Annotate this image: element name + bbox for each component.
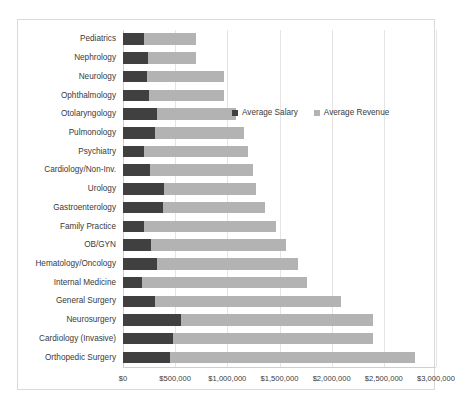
bar-segment-average-salary <box>123 127 155 139</box>
category-label: Hematology/Oncology <box>35 260 116 268</box>
x-tick-label: $3,000,000 <box>417 374 455 383</box>
stacked-bar <box>123 127 244 139</box>
bar-segment-average-revenue <box>157 108 235 120</box>
category-label: OB/GYN <box>84 241 116 249</box>
chart-row: General Surgery <box>123 292 436 311</box>
legend-entry-average-salary: Average Salary <box>232 108 298 117</box>
x-tick-label: $1,500,000 <box>260 374 298 383</box>
stacked-bar <box>123 202 265 214</box>
bar-segment-average-revenue <box>144 33 196 45</box>
x-tick-label: $500,000 <box>159 374 191 383</box>
chart-row: Cardiology (Invasive) <box>123 330 436 349</box>
category-label: Internal Medicine <box>54 279 116 287</box>
bar-segment-average-revenue <box>144 146 248 158</box>
chart-row: Ophthalmology <box>123 86 436 105</box>
category-label: Nephrology <box>74 54 116 62</box>
bar-segment-average-revenue <box>142 277 307 289</box>
bar-segment-average-salary <box>123 258 157 270</box>
bar-segment-average-salary <box>123 146 144 158</box>
x-tick-label: $2,000,000 <box>313 374 351 383</box>
bar-segment-average-revenue <box>147 71 224 83</box>
stacked-bar <box>123 183 256 195</box>
bar-segment-average-salary <box>123 33 144 45</box>
plot-area: PediatricsNephrologyNeurologyOphthalmolo… <box>123 30 436 367</box>
x-axis-line <box>123 367 436 368</box>
chart-row: OB/GYN <box>123 236 436 255</box>
bar-segment-average-salary <box>123 90 149 102</box>
chart-row: Orthopedic Surgery <box>123 348 436 367</box>
stacked-bar <box>123 90 224 102</box>
bar-segment-average-revenue <box>151 239 286 251</box>
chart-row: Nephrology <box>123 49 436 68</box>
bar-segment-average-salary <box>123 352 170 364</box>
bar-segment-average-salary <box>123 296 155 308</box>
bar-segment-average-salary <box>123 277 142 289</box>
category-label: Neurology <box>79 73 116 81</box>
category-label: Ophthalmology <box>61 91 116 99</box>
category-label: Neurosurgery <box>66 316 116 324</box>
stacked-bar <box>123 333 373 345</box>
chart-container: PediatricsNephrologyNeurologyOphthalmolo… <box>17 19 435 390</box>
bar-segment-average-revenue <box>149 90 224 102</box>
chart-row: Psychiatry <box>123 142 436 161</box>
chart-row: Pulmonology <box>123 124 436 143</box>
category-label: Family Practice <box>60 222 116 230</box>
chart-row: Neurosurgery <box>123 311 436 330</box>
chart-row: Hematology/Oncology <box>123 255 436 274</box>
stacked-bar <box>123 296 341 308</box>
stacked-bar <box>123 239 286 251</box>
bar-segment-average-revenue <box>181 314 373 326</box>
stacked-bar <box>123 33 196 45</box>
clipped-top-artifacts <box>0 0 451 14</box>
bar-segment-average-revenue <box>155 127 244 139</box>
bar-segment-average-salary <box>123 108 157 120</box>
category-label: Gastroenterology <box>53 204 116 212</box>
chart-row: Pediatrics <box>123 30 436 49</box>
bar-segment-average-revenue <box>155 296 341 308</box>
bar-segment-average-salary <box>123 333 173 345</box>
bar-segment-average-revenue <box>164 183 256 195</box>
bar-segment-average-revenue <box>150 164 253 176</box>
category-label: Cardiology/Non-Inv. <box>44 166 116 174</box>
stacked-bar <box>123 52 196 64</box>
bar-segment-average-salary <box>123 52 148 64</box>
category-label: Pulmonology <box>69 129 116 137</box>
legend-label-average-salary: Average Salary <box>242 108 298 117</box>
bar-segment-average-revenue <box>148 52 196 64</box>
category-label: General Surgery <box>56 297 116 305</box>
bar-segment-average-revenue <box>170 352 415 364</box>
legend-entry-average-revenue: Average Revenue <box>314 108 389 117</box>
legend-swatch-salary-icon <box>232 110 238 116</box>
stacked-bar <box>123 258 298 270</box>
category-label: Psychiatry <box>78 148 116 156</box>
legend-swatch-revenue-icon <box>314 110 320 116</box>
x-tick-label: $2,500,000 <box>365 374 403 383</box>
bar-segment-average-salary <box>123 239 151 251</box>
chart-row: Gastroenterology <box>123 199 436 218</box>
chart-row: Cardiology/Non-Inv. <box>123 161 436 180</box>
stacked-bar <box>123 108 236 120</box>
category-label: Pediatrics <box>80 35 116 43</box>
category-label: Otolaryngology <box>61 110 116 118</box>
chart-legend: Average Salary Average Revenue <box>232 108 389 117</box>
legend-label-average-revenue: Average Revenue <box>324 108 389 117</box>
bar-segment-average-salary <box>123 71 147 83</box>
stacked-bar <box>123 352 415 364</box>
stacked-bar <box>123 314 373 326</box>
bar-segment-average-salary <box>123 183 164 195</box>
chart-row: Neurology <box>123 67 436 86</box>
chart-row: Internal Medicine <box>123 273 436 292</box>
chart-row: Family Practice <box>123 217 436 236</box>
bar-segment-average-salary <box>123 221 144 233</box>
stacked-bar <box>123 164 253 176</box>
bar-segment-average-revenue <box>163 202 265 214</box>
category-label: Cardiology (Invasive) <box>39 335 116 343</box>
stacked-bar <box>123 221 276 233</box>
category-label: Orthopedic Surgery <box>45 354 116 362</box>
stacked-bar <box>123 71 224 83</box>
bar-segment-average-salary <box>123 202 163 214</box>
bar-segment-average-revenue <box>157 258 298 270</box>
bar-segment-average-revenue <box>144 221 277 233</box>
x-axis: $0$500,000$1,000,000$1,500,000$2,000,000… <box>123 370 436 388</box>
category-label: Urology <box>88 185 116 193</box>
